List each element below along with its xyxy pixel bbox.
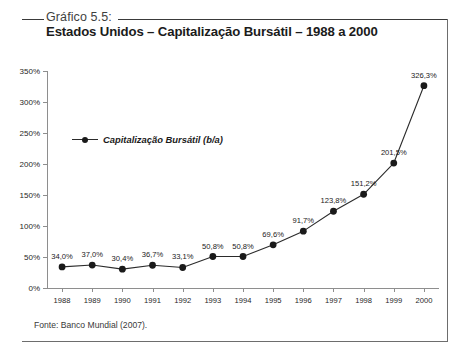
data-point-label: 50,8% [202,242,224,251]
data-point-label: 33,1% [172,252,194,261]
data-point-marker [270,241,277,248]
x-tick-mark [303,288,304,292]
data-point-label: 30,4% [112,254,134,263]
y-axis-label: 100% [20,222,40,231]
x-axis-label: 1999 [385,296,402,305]
data-point-marker [59,264,66,271]
x-tick-mark [424,288,425,292]
x-axis-label: 1997 [325,296,342,305]
data-point-marker [209,253,216,260]
frame-bottom-rule [22,341,448,342]
x-tick-mark [62,288,63,292]
data-point-marker [330,208,337,215]
data-point-label: 34,0% [51,252,73,261]
x-tick-mark [394,288,395,292]
x-axis-label: 1992 [174,296,191,305]
frame-right-rule [447,19,448,342]
data-point-label: 326,3% [411,71,437,80]
y-axis-label: 50% [24,253,40,262]
data-point-marker [240,253,247,260]
frame-top-left-rule [22,19,44,20]
x-tick-mark [333,288,334,292]
x-tick-mark [153,288,154,292]
data-point-marker [119,266,126,273]
data-point-label: 151,2% [351,179,377,188]
chart-figure-page: Gráfico 5.5: Estados Unidos – Capitaliza… [0,0,463,358]
series-line-capitalizacao-bursatil [47,71,439,288]
y-axis-label: 0% [28,284,40,293]
data-point-marker [421,82,428,89]
chart-legend: Capitalização Bursátil (b/a) [72,134,223,145]
x-tick-mark [213,288,214,292]
x-axis-label: 1998 [355,296,372,305]
data-point-marker [390,160,397,167]
y-axis-label: 200% [20,160,40,169]
x-axis-label: 1993 [204,296,221,305]
y-axis-label: 250% [20,129,40,138]
y-axis-label: 150% [20,191,40,200]
data-point-marker [300,228,307,235]
x-axis-label: 1996 [295,296,312,305]
plot-area: 0%50%100%150%200%250%300%350% 1988198919… [47,71,439,288]
x-axis-label: 2000 [415,296,432,305]
data-point-label: 37,0% [81,250,103,259]
data-point-marker [149,262,156,269]
y-tick-mark [43,288,47,289]
data-point-label: 69,6% [262,230,284,239]
data-point-marker [89,262,96,269]
frame-top-right-rule [118,19,448,20]
chart-title: Estados Unidos – Capitalização Bursátil … [46,24,378,39]
x-axis-label: 1991 [144,296,161,305]
x-tick-mark [122,288,123,292]
data-point-marker [360,191,367,198]
y-axis-label: 350% [20,67,40,76]
x-tick-mark [243,288,244,292]
x-axis-label: 1989 [84,296,101,305]
x-axis-label: 1988 [54,296,71,305]
legend-marker-icon [72,135,98,144]
y-axis-label: 300% [20,98,40,107]
data-point-label: 91,7% [293,216,315,225]
x-axis-label: 1994 [235,296,252,305]
data-point-label: 36,7% [142,250,164,259]
x-tick-mark [273,288,274,292]
data-point-marker [179,264,186,271]
x-tick-mark [183,288,184,292]
data-point-label: 50,8% [232,242,254,251]
x-axis-label: 1990 [114,296,131,305]
x-tick-mark [364,288,365,292]
legend-label: Capitalização Bursátil (b/a) [103,134,223,145]
data-point-label: 123,8% [321,196,347,205]
x-tick-mark [92,288,93,292]
x-axis-label: 1995 [265,296,282,305]
data-point-label: 201,5% [381,148,407,157]
figure-caption: Gráfico 5.5: [46,10,112,24]
figure-source: Fonte: Banco Mundial (2007). [34,320,147,330]
